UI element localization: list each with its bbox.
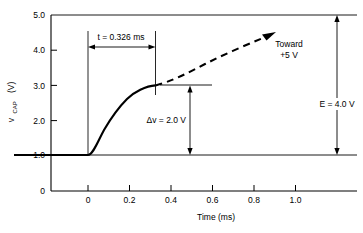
y-tick-label: 0 [40,186,45,196]
chart-canvas: 5.0 4.0 3.0 2.0 1.0 0 v CAP (V) 0 [0,0,363,233]
curve-dashed-segment [156,36,269,85]
delta-v-arrowhead-bottom-icon [187,148,192,155]
x-tick-label: 1.0 [290,195,302,205]
x-tick-label: 0.2 [124,195,136,205]
x-tick-label: 0.8 [248,195,260,205]
annotation-tau: t = 0.326 ms [88,32,156,50]
y-tick-label: 2.0 [33,116,45,126]
delta-v-arrowhead-top-icon [187,85,192,92]
curve-arrowhead-icon [262,32,276,41]
x-axis-ticks: 0 0.2 0.4 0.6 0.8 1.0 [86,185,302,205]
time-guide-lines [88,31,156,155]
tau-arrowhead-left-icon [88,44,95,49]
y-tick-label: 3.0 [33,81,45,91]
x-tick-label: 0.6 [207,195,219,205]
annotation-emf: E = 4.0 V [312,15,362,155]
toward-annotation-line2: +5 V [280,50,298,60]
y-axis-title: v CAP (V) [6,82,18,123]
delta-v-annotation-label: Δv = 2.0 V [147,115,187,125]
x-tick-label: 0 [86,195,91,205]
toward-annotation-line1: Toward [275,39,303,49]
tau-arrowhead-right-icon [149,44,156,49]
y-tick-label: 5.0 [33,10,45,20]
y-axis-ticks: 5.0 4.0 3.0 2.0 1.0 0 [33,10,57,196]
capacitor-charging-chart: 5.0 4.0 3.0 2.0 1.0 0 v CAP (V) 0 [0,0,363,233]
y-axis-title-unit: (V) [6,82,16,94]
emf-arrowhead-bottom-icon [334,148,339,155]
x-axis-title: Time (ms) [197,212,235,222]
tau-annotation-label: t = 0.326 ms [97,32,144,42]
annotation-toward: Toward +5 V [275,39,303,60]
emf-annotation-label: E = 4.0 V [319,99,355,109]
y-axis-title-subscript: CAP [12,101,18,113]
emf-arrowhead-top-icon [334,15,339,22]
y-axis-title-symbol: v [6,117,16,122]
y-tick-label: 4.0 [33,45,45,55]
annotation-delta-v: Δv = 2.0 V [147,85,193,155]
x-tick-label: 0.4 [165,195,177,205]
